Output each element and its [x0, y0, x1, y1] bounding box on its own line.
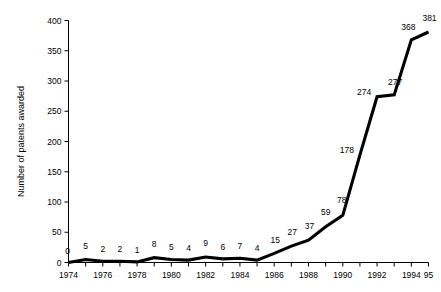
- data-point-label: 5: [83, 241, 88, 251]
- data-point-label: 27: [288, 227, 298, 237]
- data-point-label: 78: [337, 195, 347, 205]
- data-point-label: 274: [357, 87, 371, 97]
- data-point-label: 2: [118, 244, 123, 254]
- x-tick-label: 1992: [368, 270, 387, 280]
- y-tick-label: 50: [52, 227, 62, 237]
- x-tick-label: 95: [424, 270, 434, 280]
- y-tick-label: 300: [47, 76, 61, 86]
- data-point-label: 59: [321, 207, 331, 217]
- data-point-label: 0: [65, 246, 70, 256]
- x-tick-label: 1990: [333, 270, 352, 280]
- data-point-label: 8: [152, 239, 157, 249]
- y-tick-label: 150: [47, 167, 61, 177]
- y-tick-label: 0: [57, 258, 62, 268]
- x-tick-label: 1980: [162, 270, 181, 280]
- y-axis-title-label: Number of patents awarded: [16, 86, 26, 197]
- data-point-label: 4: [255, 243, 260, 253]
- y-tick-label: 400: [47, 16, 61, 26]
- data-point-label: 9: [203, 238, 208, 248]
- x-tick-label: 1974: [59, 270, 78, 280]
- data-point-label: 178: [340, 145, 354, 155]
- data-point-label: 7: [238, 241, 243, 251]
- x-tick-label: 1984: [230, 270, 249, 280]
- data-point-label: 5: [169, 242, 174, 252]
- y-tick-label: 100: [47, 197, 61, 207]
- x-tick-label: 1976: [93, 270, 112, 280]
- data-point-label: 1: [135, 245, 140, 255]
- data-point-label: 2: [100, 244, 105, 254]
- x-tick-label: 1988: [299, 270, 318, 280]
- data-point-label: 368: [401, 22, 415, 32]
- x-tick-label: 1982: [196, 270, 215, 280]
- data-point-label: 381: [422, 13, 436, 23]
- patents-line-chart: 050100150200250300350400 197419761978198…: [0, 0, 441, 292]
- y-tick-label: 350: [47, 46, 61, 56]
- data-point-label: 15: [270, 235, 280, 245]
- data-point-label: 4: [186, 243, 191, 253]
- y-axis-title: Number of patents awarded: [16, 86, 26, 197]
- y-tick-label: 200: [47, 137, 61, 147]
- data-point-label: 37: [305, 221, 315, 231]
- x-tick-label: 1986: [265, 270, 284, 280]
- y-tick-label: 250: [47, 106, 61, 116]
- x-tick-label: 1994: [402, 270, 421, 280]
- data-point-label: 6: [220, 242, 225, 252]
- data-point-label: 277: [388, 77, 402, 87]
- x-tick-label: 1978: [128, 270, 147, 280]
